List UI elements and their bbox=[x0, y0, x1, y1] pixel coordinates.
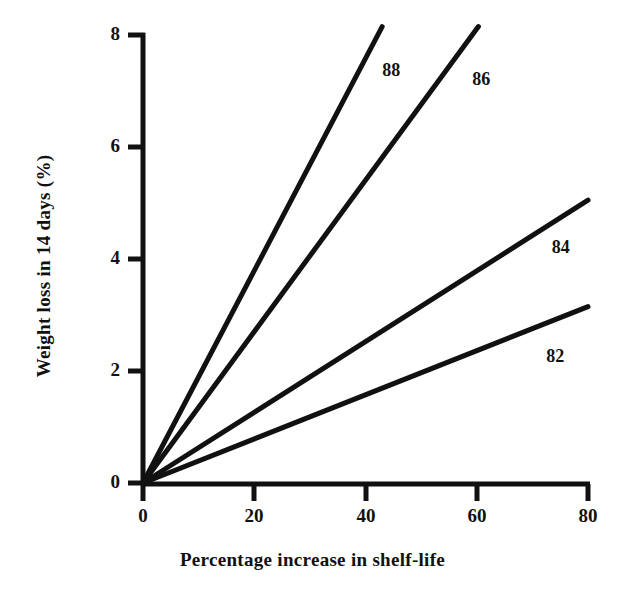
series-lines bbox=[143, 27, 588, 483]
y-tick-label-6: 6 bbox=[86, 135, 120, 157]
plot-area bbox=[0, 0, 625, 595]
x-tick-label-40: 40 bbox=[346, 505, 386, 527]
axis-spines bbox=[141, 33, 590, 484]
y-axis-title: Weight loss in 14 days (%) bbox=[33, 36, 55, 496]
series-label-88: 88 bbox=[382, 60, 400, 81]
x-axis-ticks bbox=[143, 484, 588, 501]
x-tick-label-20: 20 bbox=[234, 505, 274, 527]
series-line-88 bbox=[143, 27, 382, 483]
chart-figure: 0 20 40 60 80 8 6 4 2 0 88 86 84 82 Perc… bbox=[0, 0, 625, 595]
y-tick-label-8: 8 bbox=[86, 23, 120, 45]
x-tick-label-60: 60 bbox=[457, 505, 497, 527]
series-label-82: 82 bbox=[546, 346, 564, 367]
x-tick-label-0: 0 bbox=[123, 505, 163, 527]
series-label-84: 84 bbox=[552, 237, 570, 258]
series-line-84 bbox=[143, 200, 588, 483]
y-tick-label-4: 4 bbox=[86, 247, 120, 269]
x-tick-label-80: 80 bbox=[568, 505, 608, 527]
series-label-86: 86 bbox=[472, 69, 490, 90]
x-axis-title: Percentage increase in shelf-life bbox=[0, 549, 625, 571]
y-tick-label-2: 2 bbox=[86, 359, 120, 381]
y-tick-label-0: 0 bbox=[86, 471, 120, 493]
